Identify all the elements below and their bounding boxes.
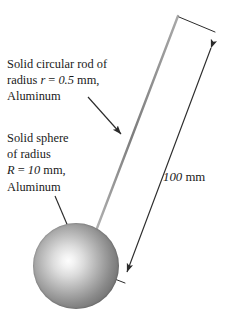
rod-radius-unit: mm, [74,73,99,87]
rod-and-sphere-figure: Solid circular rod of radius r = 0.5 mm,… [0,0,234,316]
dimension-unit: mm [182,170,205,184]
aluminum-rod [94,16,178,236]
rod-label-line3: Aluminum [7,88,107,104]
sphere-label-line4: Aluminum [7,179,69,195]
sphere-label-line2: of radius [7,146,69,162]
sphere-label-line1: Solid sphere [7,130,69,146]
sphere-radius-value: 10 [28,163,40,177]
sphere-radius-unit: mm, [40,163,65,177]
rod-label-text: Solid circular rod of radius r = 0.5 mm,… [7,56,107,105]
rod-radius-prefix: radius [7,73,40,87]
aluminum-sphere [33,223,119,309]
sphere-label-text: Solid sphere of radius R = 10 mm, Alumin… [7,130,69,195]
top-extension-line [179,17,215,32]
rod-radius-value: 0.5 [58,73,74,87]
sphere-label-line3: R = 10 mm, [7,162,69,178]
sphere-radius-equals: = [15,163,28,177]
dimension-value: 100 [163,170,182,184]
rod-radius-equals: = [45,73,58,87]
dimension-label: 100 mm [163,170,205,185]
rod-label-line2: radius r = 0.5 mm, [7,72,107,88]
sphere-radius-symbol: R [7,163,15,177]
rod-label-line1: Solid circular rod of [7,56,107,72]
dimension-line-100mm [127,48,211,272]
